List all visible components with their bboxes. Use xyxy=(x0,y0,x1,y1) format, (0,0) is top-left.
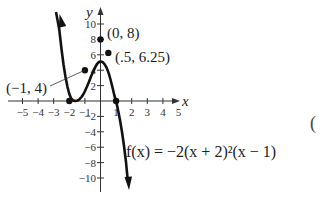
x-tick-label: 4 xyxy=(160,106,166,118)
function-label: f(x) = −2(x + 2)²(x − 1) xyxy=(126,143,276,161)
y-tick-label: −2 xyxy=(84,110,96,122)
y-tick-label: −4 xyxy=(84,126,96,138)
point-root-1 xyxy=(113,98,119,104)
point-neg1-4 xyxy=(82,67,88,73)
label-point-neg1-4: (−1, 4) xyxy=(6,80,47,97)
x-tick-label: −3 xyxy=(48,106,60,118)
x-tick-label: 2 xyxy=(129,106,135,118)
x-tick-label: −2 xyxy=(63,106,75,118)
y-axis-arrow-icon xyxy=(98,7,104,15)
x-tick-label: 3 xyxy=(145,106,151,118)
y-tick-label: 2 xyxy=(91,80,97,92)
function-graph: −5 −4 −3 −2 −1 1 2 3 4 5 x 10 8 6 4 xyxy=(0,0,327,197)
y-tick-label: 6 xyxy=(91,49,97,61)
label-point-0-8: (0, 8) xyxy=(107,25,140,42)
x-axis: −5 −4 −3 −2 −1 1 2 3 4 5 x xyxy=(8,93,189,118)
label-point-05-625: (.5, 6.25) xyxy=(115,49,170,66)
x-tick-label: −4 xyxy=(32,106,44,118)
x-axis-arrow-icon xyxy=(172,98,180,104)
point-05-625 xyxy=(105,50,111,56)
y-axis-label: y xyxy=(84,4,93,20)
x-axis-label: x xyxy=(181,93,189,109)
stray-paren: ( xyxy=(310,113,316,134)
x-tick-label: −5 xyxy=(17,106,29,118)
point-root-neg2 xyxy=(66,98,72,104)
curve-arrow-down-icon xyxy=(125,177,133,191)
y-tick-label: 8 xyxy=(91,33,97,45)
y-tick-label: −6 xyxy=(84,141,96,153)
point-0-8 xyxy=(97,36,103,42)
y-tick-label: −8 xyxy=(84,157,96,169)
x-tick-label: 5 xyxy=(176,106,182,118)
y-tick-label: −10 xyxy=(79,172,97,184)
y-axis: 10 8 6 4 2 −2 −4 −6 −8 −10 y xyxy=(79,4,104,192)
